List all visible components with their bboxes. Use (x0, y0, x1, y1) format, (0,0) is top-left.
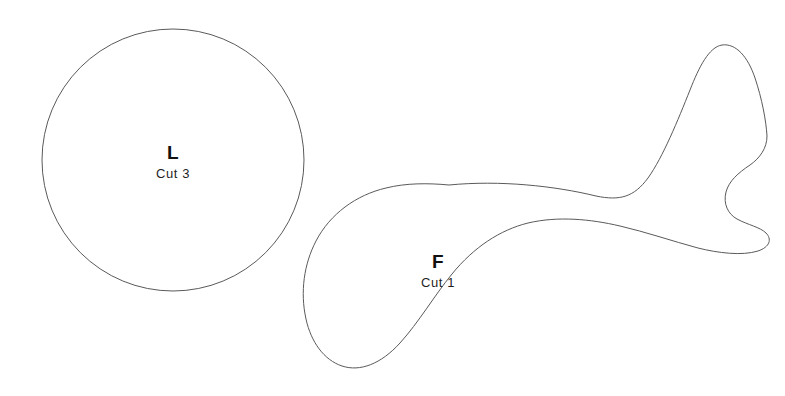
pattern-outlines-canvas (0, 0, 785, 396)
piece-cut-count-f: Cut 1 (398, 276, 478, 289)
piece-label-l: L Cut 3 (133, 143, 213, 180)
pattern-sheet: L Cut 3 F Cut 1 (0, 0, 785, 396)
piece-letter-f: F (398, 252, 478, 271)
piece-letter-l: L (133, 143, 213, 162)
piece-cut-count-l: Cut 3 (133, 167, 213, 180)
piece-outline-f (303, 45, 769, 368)
piece-label-f: F Cut 1 (398, 252, 478, 289)
